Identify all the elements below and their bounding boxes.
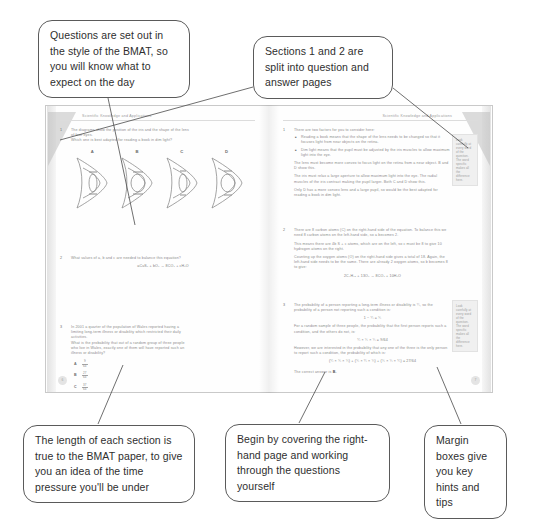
answer-3-conclusion-prefix: The correct answer is: [294, 370, 333, 374]
choice-b-denominator: 64: [82, 376, 88, 379]
answer-3-equation-3: (¼ × ¾ × ¾) + (¾ × ¼ × ¾) + (¾ × ¾ × ¼) …: [294, 359, 451, 364]
answer-2-para-1: There are 8 carbon atoms (C) on the righ…: [294, 228, 451, 238]
choice-fraction-b: 27 64: [82, 372, 88, 380]
book-spread: Scientific Knowledge and Applications 1 …: [45, 105, 493, 393]
question-3-choice-c[interactable]: C 37 64: [74, 384, 255, 392]
eye-diagram-option-a: A: [71, 149, 113, 214]
answer-1-para-1: The lens must become more convex to focu…: [294, 161, 451, 171]
eye-diagram-option-b: B: [116, 149, 158, 214]
answer-number-1: 1: [283, 128, 291, 132]
answer-1-bullet-1: Reading a book means that the shape of t…: [301, 135, 451, 145]
answer-2-para-2: This means there are 4b S + c atoms, whi…: [294, 242, 451, 252]
answer-number-2: 2: [283, 228, 291, 232]
eye-option-label-b: B: [116, 149, 158, 154]
callout-cover-page: Begin by covering the right-hand page an…: [225, 424, 390, 502]
page-block-bottom-right: [272, 392, 488, 393]
answer-1-bullet-list: Reading a book means that the shape of t…: [294, 135, 451, 158]
book-page-right: Scientific Knowledge and Applications Lo…: [269, 105, 493, 393]
question-body-1: The diagrams show the position of the ir…: [71, 128, 255, 144]
choice-fraction-a: 9 64: [82, 360, 88, 368]
answer-1-bullet-2: Dim light means that the pupil must be a…: [301, 148, 451, 158]
question-3-choice-list: A 9 64 B 27 64: [74, 360, 255, 393]
eye-option-label-a: A: [71, 149, 113, 154]
eye-diagram-row: A B: [70, 149, 249, 214]
answer-3-conclusion-answer: B.: [333, 370, 337, 374]
answer-body-1: There are two factors for you to conside…: [294, 128, 451, 198]
callout-cover-page-text: Begin by covering the right-hand page an…: [237, 432, 379, 494]
question-2-stem-line-1: What values of a, b and c are needed to …: [71, 256, 255, 261]
eye-diagram-option-d: D: [206, 149, 248, 214]
answer-2-para-3: Counting up the oxygen atoms (O) on the …: [294, 255, 451, 271]
callout-questions-style-text: Questions are set out in the style of th…: [50, 28, 179, 90]
question-number-3: 3: [60, 325, 68, 329]
eye-option-label-c: C: [161, 149, 203, 154]
answer-3-para-1: The probability of a person reporting a …: [294, 303, 451, 313]
eye-cross-section-icon-d: [206, 156, 248, 210]
page-number-left: 6: [58, 376, 67, 385]
page-block-bottom-left: [50, 392, 266, 393]
answer-3-para-3: However, we are interested in the probab…: [294, 346, 451, 356]
answer-2-equation: 2C₄H₁₀ + 13O₂ → 8CO₂ + 10H₂O: [294, 274, 451, 279]
answer-3-para-2: For a random sample of three people, the…: [294, 324, 451, 334]
question-block-1: 1 The diagrams show the position of the …: [60, 128, 255, 214]
choice-letter-c: C: [74, 385, 78, 390]
choice-letter-a: A: [74, 362, 78, 367]
margin-hint-box-bottom: Look carefully at every word of the ques…: [452, 300, 478, 352]
eye-cross-section-icon-b: [116, 156, 158, 210]
choice-letter-b: B: [74, 373, 78, 378]
answer-block-2: 2 There are 8 carbon atoms (C) on the ri…: [283, 228, 451, 279]
answer-1-para-2: The iris must relax a large aperture to …: [294, 174, 451, 184]
choice-fraction-c: 37 64: [82, 384, 88, 392]
running-head-left: Scientific Knowledge and Applications: [60, 114, 255, 121]
question-body-3: In 2001 a quarter of the population of W…: [71, 325, 255, 393]
question-1-stem-line-3: Which one is best adapted for reading a …: [71, 138, 255, 143]
callout-questions-style: Questions are set out in the style of th…: [38, 20, 190, 98]
question-body-2: What values of a, b and c are needed to …: [71, 256, 255, 269]
answer-block-3: 3 The probability of a person reporting …: [283, 303, 451, 375]
eye-cross-section-icon-c: [161, 156, 203, 210]
question-number-1: 1: [60, 128, 68, 132]
callout-sections-split-text: Sections 1 and 2 are split into question…: [265, 44, 382, 91]
answer-1-para-3: Only D has a more convex lens and a larg…: [294, 188, 451, 198]
question-3-stem-line-6: illness or disability?: [71, 351, 255, 356]
answer-1-intro: There are two factors for you to conside…: [294, 128, 451, 133]
answer-block-1: 1 There are two factors for you to consi…: [283, 128, 451, 198]
question-3-choice-b[interactable]: B 27 64: [74, 372, 255, 380]
callout-margin-boxes: Margin boxes give you key hints and tips: [424, 425, 507, 519]
callout-section-length: The length of each section is true to th…: [23, 425, 195, 503]
answer-body-2: There are 8 carbon atoms (C) on the righ…: [294, 228, 451, 279]
eye-option-label-d: D: [206, 149, 248, 154]
running-head-right: Scientific Knowledge and Applications: [283, 114, 478, 121]
choice-a-denominator: 64: [82, 365, 88, 368]
book-page-left: Scientific Knowledge and Applications 1 …: [45, 105, 269, 393]
question-block-2: 2 What values of a, b and c are needed t…: [60, 256, 255, 269]
answer-3-equation-1: 1 − ¼ = ¾: [294, 316, 451, 321]
question-3-choice-a[interactable]: A 9 64: [74, 360, 255, 368]
callout-sections-split: Sections 1 and 2 are split into question…: [253, 36, 393, 99]
callout-section-length-text: The length of each section is true to th…: [35, 433, 184, 495]
question-2-equation: aCuS₂ + bO₂ → 8CO₂ + cH₂O: [71, 264, 255, 269]
margin-hint-box-top: Look carefully at every word of the ques…: [452, 134, 478, 186]
answer-3-conclusion: The correct answer is B.: [294, 370, 451, 375]
eye-diagram-option-c: C: [161, 149, 203, 214]
answer-number-3: 3: [283, 303, 291, 307]
callout-margin-boxes-text: Margin boxes give you key hints and tips: [436, 433, 496, 511]
answer-3-equation-2: ¼ × ¾ × ¾ = 9/64: [294, 338, 451, 343]
question-block-3: 3 In 2001 a quarter of the population of…: [60, 325, 255, 393]
answer-body-3: The probability of a person reporting a …: [294, 303, 451, 375]
question-number-2: 2: [60, 256, 68, 260]
eye-cross-section-icon-a: [71, 156, 113, 210]
page-number-right: 7: [471, 376, 480, 385]
